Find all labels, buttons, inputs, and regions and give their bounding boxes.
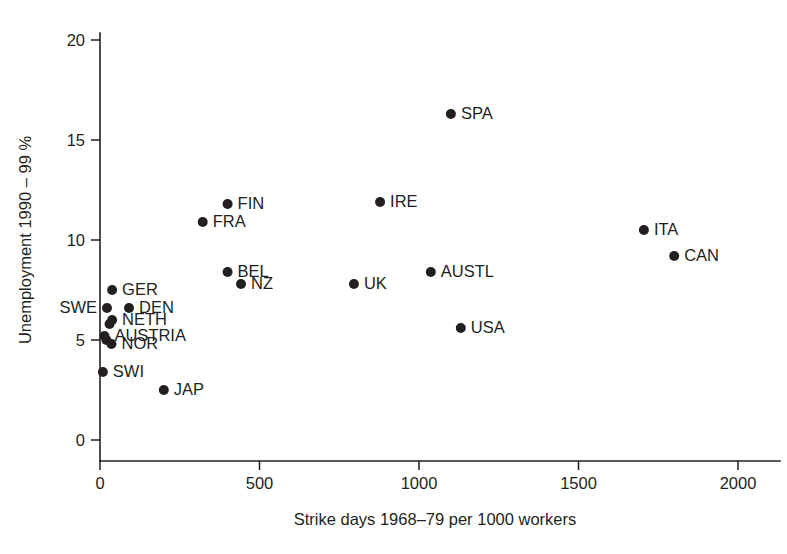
point-label-fin: FIN xyxy=(238,194,265,212)
point-label-ger: GER xyxy=(122,280,158,298)
point-label-austl: AUSTL xyxy=(441,262,494,280)
point-label-can: CAN xyxy=(684,246,719,264)
x-axis-tick-label: 500 xyxy=(246,474,274,492)
point-label-spa: SPA xyxy=(461,104,493,122)
x-axis-tick-label: 0 xyxy=(95,474,104,492)
y-axis-title: Unemployment 1990 – 99 % xyxy=(16,136,34,345)
data-point-bel xyxy=(223,267,233,277)
data-point-neth xyxy=(107,315,117,325)
y-axis-tick-label: 15 xyxy=(67,131,85,149)
data-point-spa xyxy=(446,109,456,119)
x-axis-title: Strike days 1968–79 per 1000 workers xyxy=(294,510,577,528)
data-point-ger xyxy=(107,285,117,295)
scatter-plot-canvas: 051015200500100015002000 SPAIREFINFRAITA… xyxy=(0,0,787,554)
data-point-swi xyxy=(98,367,108,377)
data-point-fra xyxy=(198,217,208,227)
ticks-group xyxy=(91,40,738,470)
point-label-ita: ITA xyxy=(654,220,678,238)
data-point-can xyxy=(669,251,679,261)
point-label-nz: NZ xyxy=(251,274,273,292)
point-label-usa: USA xyxy=(471,318,505,336)
data-point-nz xyxy=(236,279,246,289)
data-point-jap xyxy=(159,385,169,395)
point-labels-group: SPAIREFINFRAITACANBELAUSTLNZUKGERDENSWEN… xyxy=(59,104,719,398)
y-axis-tick-label: 20 xyxy=(67,31,85,49)
y-axis-tick-label: 10 xyxy=(67,231,85,249)
x-axis-tick-label: 1000 xyxy=(401,474,438,492)
point-label-ire: IRE xyxy=(390,192,418,210)
data-point-swe xyxy=(102,303,112,313)
point-label-swe: SWE xyxy=(59,298,97,316)
point-label-jap: JAP xyxy=(174,380,204,398)
data-points-group xyxy=(98,109,679,395)
scatter-plot-figure: 051015200500100015002000 SPAIREFINFRAITA… xyxy=(0,0,787,554)
point-label-fra: FRA xyxy=(213,212,246,230)
data-point-fin xyxy=(223,199,233,209)
point-label-uk: UK xyxy=(364,274,387,292)
x-axis-tick-label: 2000 xyxy=(720,474,757,492)
data-point-uk xyxy=(349,279,359,289)
data-point-usa xyxy=(456,323,466,333)
point-label-swi: SWI xyxy=(113,362,144,380)
y-axis-tick-label: 5 xyxy=(76,331,85,349)
data-point-ita xyxy=(639,225,649,235)
y-axis-tick-label: 0 xyxy=(76,431,85,449)
data-point-austria xyxy=(99,331,109,341)
point-label-nor: NOR xyxy=(121,334,158,352)
data-point-austl xyxy=(426,267,436,277)
data-point-ire xyxy=(375,197,385,207)
x-axis-tick-label: 1500 xyxy=(560,474,597,492)
tick-labels-group: 051015200500100015002000 xyxy=(67,31,757,492)
